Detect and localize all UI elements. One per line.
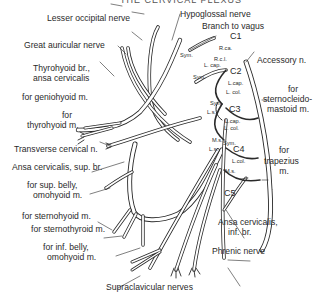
label-l-cap-3: L.cap. [225, 118, 240, 124]
label-trapezius-m: m. [264, 167, 304, 176]
label-scm-for: for [268, 85, 318, 94]
label-hypoglossal-nerve: Hypoglossal nerve [180, 10, 251, 19]
cervical-plexus-diagram: THE CERVICAL PLEXUS [0, 0, 320, 297]
label-l-col-4: L.col. [232, 158, 245, 164]
great-auricular-nerve [122, 48, 190, 142]
label-root-c4: C4 [233, 145, 245, 154]
label-lesser-occipital-nerve: Lesser occipital nerve [47, 14, 130, 23]
label-sup-belly-omohyoid: omohyoid m. [33, 191, 82, 200]
label-ls-4: L.s. [209, 146, 218, 152]
label-inf-belly-omohyoid: omohyoid m. [47, 253, 96, 262]
label-sup-belly: for sup. belly, [27, 181, 77, 190]
label-scm-sternocleido: sternocleido- [263, 95, 312, 104]
label-sym-2: Sym. [193, 74, 206, 80]
label-l-cap-1: L. cap. [204, 62, 221, 68]
label-ansa-inf-br-2: inf. br. [228, 228, 251, 237]
label-l-col-3: L. col. [224, 125, 239, 131]
label-branch-to-vagus: Branch to vagus [202, 22, 264, 31]
label-supraclavicular-nerves: Supraclavicular nerves [106, 283, 193, 292]
label-root-c5: C5 [224, 189, 236, 198]
label-ms-4a: M.s. [212, 137, 223, 143]
label-sym-1: Sym. [180, 52, 193, 58]
label-sternohyoid: for sternohyoid m. [22, 212, 91, 221]
label-thyrohyoid-m: thyrohyoid m. [27, 121, 79, 130]
label-transverse-cervical: Transverse cervical n. [14, 145, 98, 154]
label-scm-mastoid: mastoid m. [267, 105, 309, 114]
label-great-auricular-nerve: Great auricular nerve [24, 41, 105, 50]
label-sym-4: Sym. [223, 140, 236, 146]
label-trapezius-for: for [264, 146, 304, 155]
label-ms-4b: M.s. [225, 168, 236, 174]
label-phrenic-nerve: Phrenic nerve [212, 247, 265, 256]
label-sternothyroid: for sternothyroid m. [31, 225, 105, 234]
label-thyrohyoid-for: for [47, 111, 87, 120]
label-trapezius: trapezius [264, 157, 299, 166]
label-root-c2: C2 [230, 67, 242, 76]
label-r-ca: R.ca. [219, 45, 232, 51]
label-root-c3: C3 [229, 105, 241, 114]
label-accessory-n: Accessory n. [257, 56, 306, 65]
label-inf-belly: for inf. belly, [43, 243, 89, 252]
label-l-cap-2: L.cap. [228, 80, 243, 86]
label-l-col-2: L. col. [226, 89, 241, 95]
label-ansa-inf-br: Ansa cervicalis, [218, 218, 278, 227]
label-ansa-sup-br: Ansa cervicalis, sup. br. [12, 163, 102, 172]
label-thyrohyoid-ansa: ansa cervicalis [33, 74, 89, 83]
label-sym-3: Sym. [210, 100, 223, 106]
label-geniohyoid: for geniohyoid m. [22, 93, 88, 102]
label-root-c1: C1 [230, 32, 242, 41]
label-ls-3: L.s. [207, 109, 216, 115]
label-thyrohyoid-br: Thyrohyoid br., [33, 64, 90, 73]
